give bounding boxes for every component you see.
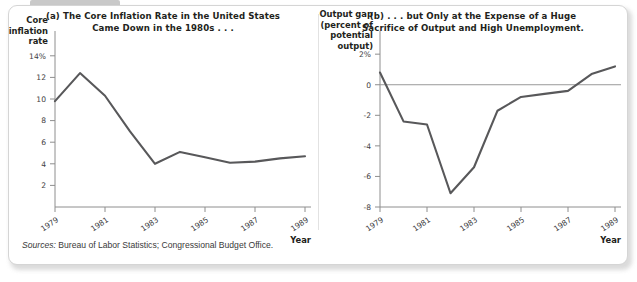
- y-axis-label-line: output): [337, 41, 373, 51]
- y-tick-label: 10: [36, 95, 46, 104]
- y-tick-label: 2: [41, 181, 46, 190]
- y-tick-label: 12: [36, 73, 46, 82]
- y-tick-label: 2%: [359, 50, 371, 59]
- y-tick-label: -6: [363, 172, 371, 181]
- x-tick-label: 1983: [139, 215, 160, 233]
- figure-root: (a) The Core Inflation Rate in the Unite…: [0, 0, 637, 282]
- y-tick-label: 14%: [29, 52, 46, 61]
- y-tick-label: -8: [363, 203, 371, 212]
- sources-text: Bureau of Labor Statistics; Congressiona…: [58, 240, 273, 250]
- x-tick-label: 1983: [458, 215, 479, 233]
- y-tick-label: -4: [363, 142, 371, 151]
- x-tick-label: 1981: [89, 215, 110, 233]
- data-series-line: [380, 66, 615, 193]
- x-tick-label: 1989: [599, 215, 620, 233]
- x-axis-label: Year: [289, 235, 312, 245]
- sources-note: Sources: Bureau of Labor Statistics; Con…: [22, 240, 273, 250]
- y-tick-label: 6: [41, 138, 46, 147]
- y-axis-label-line: potential: [330, 30, 373, 40]
- x-tick-label: 1979: [364, 215, 385, 233]
- panel-a: (a) The Core Inflation Rate in the Unite…: [8, 5, 318, 237]
- panel-divider: [318, 14, 319, 230]
- y-axis-label-line: inflation: [9, 26, 48, 36]
- x-axis-label: Year: [599, 235, 622, 245]
- x-tick-label: 1979: [39, 215, 60, 233]
- x-tick-label: 1985: [505, 215, 526, 233]
- y-tick-label: 0: [366, 81, 371, 90]
- y-tick-label: 8: [41, 116, 46, 125]
- panel-b: (b) . . . but Only at the Expense of a H…: [318, 5, 628, 237]
- x-tick-label: 1989: [289, 215, 310, 233]
- x-tick-label: 1985: [189, 215, 210, 233]
- x-tick-label: 1981: [411, 215, 432, 233]
- y-tick-label: -2: [363, 111, 371, 120]
- panel-a-plot: 2468101214%197919811983198519871989Corei…: [8, 5, 318, 237]
- x-tick-label: 1987: [552, 215, 573, 233]
- y-axis-label-line: Output gap: [319, 9, 373, 19]
- y-axis-label-line: (percent of: [320, 20, 373, 30]
- y-axis-label-line: Core: [26, 15, 48, 25]
- y-tick-label: 4: [41, 160, 46, 169]
- x-tick-label: 1987: [239, 215, 260, 233]
- sources-label: Sources:: [22, 240, 56, 250]
- panel-b-plot: -8-6-4-202%197919811983198519871989Outpu…: [318, 5, 628, 237]
- y-axis-label-line: rate: [29, 36, 49, 46]
- data-series-line: [55, 73, 305, 164]
